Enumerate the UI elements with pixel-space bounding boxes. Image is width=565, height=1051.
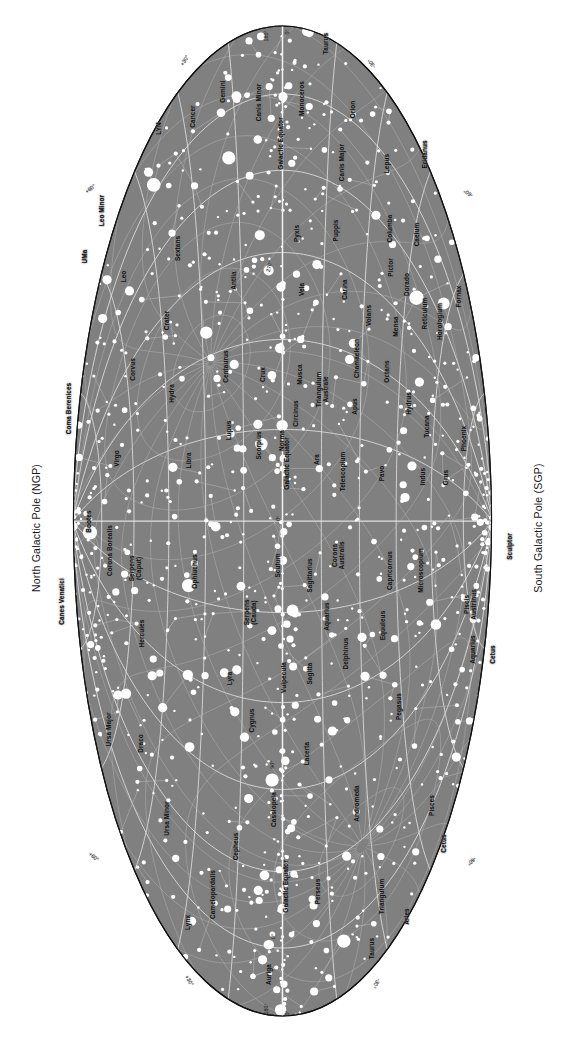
constellation-label: Cetus xyxy=(489,645,496,663)
constellation-label: Antlia xyxy=(230,271,237,289)
constellation-label: Cetus xyxy=(440,834,447,852)
constellation-label: Coma Berenices xyxy=(65,383,72,434)
constellation-label: Aquarius xyxy=(469,635,476,664)
constellation-label: Canis Major xyxy=(338,144,345,181)
constellation-label: Corona Australis xyxy=(331,541,346,569)
constellation-label: Triangulum xyxy=(378,879,385,914)
galactic-equator-label: Galactic Equator xyxy=(283,437,290,489)
constellation-label: Monoceros xyxy=(298,81,305,116)
constellation-label: Carina xyxy=(341,279,348,300)
constellation-label: Circinus xyxy=(292,400,299,426)
constellation-label: Crater xyxy=(163,311,170,330)
grid-tick-label: 0° xyxy=(284,1010,290,1015)
constellation-label: Aquarius xyxy=(323,602,330,631)
constellation-label: Grus xyxy=(442,470,449,485)
constellation-label: Aries xyxy=(403,908,410,925)
constellation-label: Hercules xyxy=(138,620,145,648)
constellation-label: Indus xyxy=(419,468,426,486)
constellation-label: Sculptor xyxy=(506,533,513,560)
constellation-label: Corona Borealis xyxy=(106,525,113,576)
constellation-label: Fornax xyxy=(455,286,462,308)
grid-tick-label: 0° xyxy=(284,29,290,34)
constellation-label: Volans xyxy=(365,305,372,326)
constellation-label: Orion xyxy=(349,101,356,119)
constellation-label: Vela xyxy=(298,283,305,296)
constellation-label: Draco xyxy=(137,734,144,753)
constellation-label: Serpens (Caput) xyxy=(128,555,143,581)
constellation-label: Cancer xyxy=(189,105,196,127)
constellation-label: Lupus xyxy=(225,421,232,441)
constellation-label: Lacerta xyxy=(303,742,310,765)
constellation-label: Vulpecula xyxy=(280,662,287,693)
north-galactic-pole-label: North Galactic Pole (NGP) xyxy=(30,448,42,608)
constellation-label: Leo xyxy=(120,271,127,283)
constellation-label: Gemini xyxy=(219,80,226,102)
constellation-label: Pavo xyxy=(378,466,385,482)
constellation-label: Dorado xyxy=(403,273,410,296)
constellation-label: Pictor xyxy=(387,258,394,277)
south-galactic-pole-label: South Galactic Pole (SGP) xyxy=(532,448,544,608)
galactic-equator-label: Galactic Equator xyxy=(277,117,284,169)
constellation-label: Sextans xyxy=(174,236,181,261)
constellation-label: Scutum xyxy=(274,553,281,577)
constellation-label: UMa xyxy=(81,250,88,264)
constellation-label: Lyra xyxy=(226,672,233,686)
constellation-label: Auriga xyxy=(265,964,272,985)
grid-tick-label: 0° xyxy=(275,515,282,521)
constellation-label: Hydrus xyxy=(405,392,412,415)
constellation-label: Perseus xyxy=(314,879,321,905)
constellation-label: Triangulum Australe xyxy=(315,372,330,407)
constellation-label: Eridanus xyxy=(421,140,428,168)
constellation-label: Puppis xyxy=(332,220,339,242)
constellation-label: Camelopardalis xyxy=(209,870,216,919)
constellation-label: Libra xyxy=(185,452,192,468)
constellation-label: Andromeda xyxy=(353,785,360,821)
constellation-label: Taurus xyxy=(368,938,375,959)
constellation-label: Cygnus xyxy=(248,708,255,732)
constellation-label: Canis Minor xyxy=(255,84,262,122)
constellation-label: Sagitta xyxy=(306,662,313,684)
constellation-label: Canes Venatici xyxy=(58,578,65,625)
constellation-label: Corvus xyxy=(129,358,136,381)
constellation-label: Equuleus xyxy=(379,611,386,641)
constellation-label: Crux xyxy=(259,367,266,382)
constellation-label: Ara xyxy=(313,454,320,465)
constellation-label: Chamaeleon xyxy=(353,339,360,378)
constellation-label: Serpens (Cauda) xyxy=(243,599,258,625)
constellation-label: Reticulum xyxy=(421,298,428,330)
constellation-label: Ophiuchus xyxy=(191,554,198,588)
grid-tick-label: 180° xyxy=(263,30,269,41)
constellation-label: Scorpius xyxy=(255,431,262,459)
constellation-label: Pisces xyxy=(428,795,435,816)
constellation-label: Hydra xyxy=(168,384,175,403)
galactic-equator-label: Galactic Equator xyxy=(282,860,289,912)
constellation-label: Virgo xyxy=(113,450,120,467)
constellation-label: Leo Minor xyxy=(98,195,105,226)
constellation-label: Lynx xyxy=(184,915,191,930)
constellation-label: Taurus xyxy=(322,33,329,54)
constellation-label: Telescopium xyxy=(339,452,346,492)
constellation-label: Cassiopeia xyxy=(270,792,277,827)
constellation-label: Mensa xyxy=(392,316,399,336)
constellation-label: Centaurus xyxy=(222,350,229,383)
grid-tick-label: 90° xyxy=(268,760,275,769)
constellation-label: Columba xyxy=(386,214,393,242)
star-chart-figure: North Galactic Pole (NGP) South Galactic… xyxy=(0,0,565,1051)
constellation-label: Delphinus xyxy=(342,638,349,670)
constellation-label: Piscis Austrinus xyxy=(463,589,478,620)
constellation-label: Horologium xyxy=(436,303,443,340)
constellation-label: Bootes xyxy=(85,510,92,532)
constellation-label: Cepheus xyxy=(232,833,239,861)
constellation-label: Caelum xyxy=(413,223,420,247)
constellation-label: Pegasus xyxy=(395,693,402,720)
constellation-label: Capricornus xyxy=(386,551,393,590)
constellation-label: Ursa Minor xyxy=(163,801,170,835)
constellation-label: Ursa Major xyxy=(105,712,112,746)
constellation-label: Tucana xyxy=(423,415,430,438)
grid-tick-label: 180° xyxy=(263,1003,269,1014)
constellation-label: Microscopium xyxy=(417,548,424,593)
grid-tick-label: 0° xyxy=(270,934,277,940)
constellation-label: Sagittarius xyxy=(306,558,313,592)
constellation-label: Apus xyxy=(351,398,358,414)
constellation-label: Phoenix xyxy=(460,426,467,452)
